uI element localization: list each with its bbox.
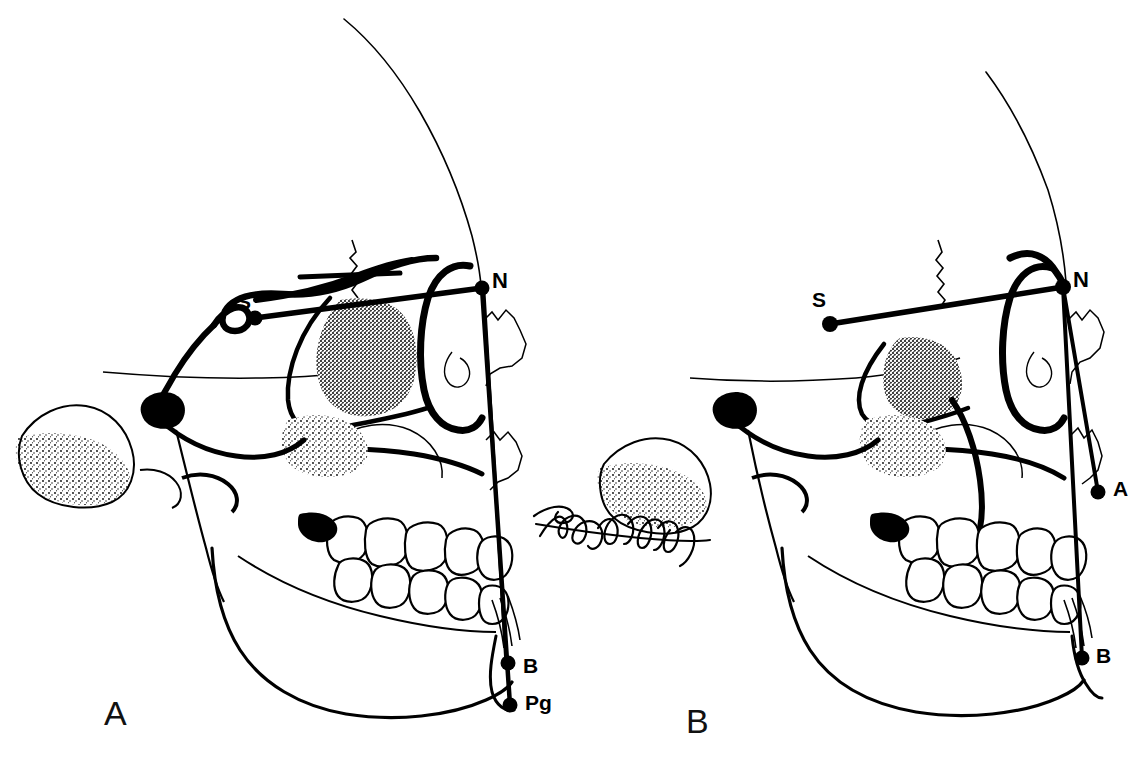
panel-b-label-sella: S [812,289,826,310]
panel-b-alveolar-shading [870,512,909,542]
panel-a-occipital-shading [16,433,131,505]
panel-b-orbit-inner-detail [1027,352,1052,387]
panel-a-label-nasion: N [492,270,508,292]
panel-a-clivus [256,260,412,300]
panel-a-alveolar-shading [298,512,337,542]
panel-b-coronoid-notch [732,420,878,457]
panel-a-landmark-dot-pg [503,698,518,713]
panel-b-label-a-point: A [1113,478,1128,499]
panel-a-ramus-posterior [176,430,224,602]
panel-b-letter: B [686,702,709,741]
panel-a-styloid-detail [140,470,181,509]
panel-b-nasal-spine [752,475,807,512]
panel-b-ramus-posterior [748,430,794,602]
panel-b-maxilla-contour [952,400,982,528]
panel-a-orbit-inner-detail [445,352,470,387]
panel-a-label-b-point: B [523,655,538,676]
panel-b-sphenoid-shading [883,337,962,419]
figure-root: S N B Pg S N A B A B [0,0,1142,780]
panel-a-landmark-dot-b [501,656,516,671]
cephalometric-tracing-canvas [0,0,1142,780]
panel-a-nasal-spine [182,475,237,512]
panel-a-planum-line [300,273,400,277]
panel-b-landmark-dot-s [822,316,838,332]
panel-b-label-nasion: N [1073,269,1089,291]
panel-b-landmark-dot-b [1075,651,1090,666]
panel-b-cribriform-jagged [936,240,945,308]
panel-b-label-b-point: B [1096,645,1111,666]
panel-a-cribriform-jagged [350,240,358,298]
panel-a-label-sella: S [237,291,251,312]
panel-a-drawing [16,19,526,718]
panel-a-landmark-dot-n [475,281,490,296]
panel-a-soft-tissue-profile [344,19,481,286]
panel-a-sphenoid-shading [316,299,416,417]
panel-b-sella-nasion-line [830,287,1063,324]
panel-a-letter: A [104,694,127,733]
panel-a-label-pogonion: Pg [525,692,552,713]
panel-b-landmark-dot-n [1055,279,1071,295]
panel-b-landmark-dot-a [1091,485,1106,500]
panel-b-drawing [534,72,1106,716]
